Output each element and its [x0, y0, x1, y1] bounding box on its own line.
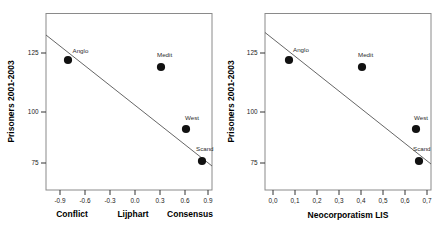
left-x-tick-3: -0.3: [104, 197, 115, 204]
left-point-label-west: West: [185, 114, 199, 121]
left-point-label-anglo: Anglo: [73, 47, 89, 54]
left-x-category-lijphart: Lijphart: [117, 209, 148, 219]
right-x-tick-4: 0,3: [334, 197, 343, 204]
left-x-category-conflict: Conflict: [56, 209, 88, 219]
right-x-axis-title: Neocorporatism LIS: [307, 210, 388, 220]
left-x-tick-5: 0.3: [156, 197, 165, 204]
left-point-label-scand: Scand: [196, 145, 214, 152]
right-data-point-scand: [414, 157, 422, 165]
left-data-point-anglo: [64, 56, 72, 64]
left-y-axis-title: Prisoners 2001-2003: [6, 60, 16, 142]
left-x-tick-4: 0.0: [131, 197, 140, 204]
left-y-tick-75: 75: [31, 159, 39, 166]
left-chart-panel: Prisoners 2001-2003 125 100 75 -0.9 -0.6…: [0, 0, 222, 235]
left-x-tick-6: 0.6: [181, 197, 190, 204]
right-chart-panel: Prisoners 2001-2003 125 100 75 0,0 0,1 0…: [222, 0, 443, 235]
left-data-point-medit: [157, 63, 165, 71]
left-plot-frame: [46, 14, 212, 191]
left-chart-svg: Prisoners 2001-2003 125 100 75 -0.9 -0.6…: [0, 0, 222, 235]
right-chart-svg: Prisoners 2001-2003 125 100 75 0,0 0,1 0…: [222, 0, 443, 235]
scatterplot-figure: Prisoners 2001-2003 125 100 75 -0.9 -0.6…: [0, 0, 443, 235]
right-point-label-medit: Medit: [358, 51, 373, 58]
left-x-tick-2: -0.6: [79, 197, 90, 204]
right-x-tick-7: 0,6: [400, 197, 409, 204]
left-data-point-west: [182, 125, 190, 133]
right-plot-frame: [265, 14, 431, 191]
left-x-category-consensus: Consensus: [167, 209, 213, 219]
right-x-tick-5: 0,4: [356, 197, 365, 204]
right-data-point-medit: [357, 63, 365, 71]
right-data-point-west: [411, 125, 419, 133]
left-point-label-medit: Medit: [157, 51, 172, 58]
left-x-tick-7: 0.9: [204, 197, 213, 204]
right-x-tick-2: 0,1: [290, 197, 299, 204]
right-y-axis-title: Prisoners 2001-2003: [226, 60, 236, 142]
right-x-tick-6: 0,5: [378, 197, 387, 204]
right-point-label-anglo: Anglo: [293, 46, 309, 53]
left-y-tick-125: 125: [28, 49, 39, 56]
right-point-label-scand: Scand: [413, 145, 431, 152]
right-y-tick-75: 75: [250, 159, 258, 166]
right-data-point-anglo: [284, 56, 292, 64]
left-x-tick-1: -0.9: [54, 197, 65, 204]
right-y-tick-125: 125: [246, 49, 257, 56]
right-x-tick-3: 0,2: [312, 197, 321, 204]
right-x-tick-1: 0,0: [268, 197, 277, 204]
right-point-label-west: West: [414, 114, 428, 121]
left-y-tick-100: 100: [28, 108, 39, 115]
right-x-tick-8: 0,7: [422, 197, 431, 204]
left-data-point-scand: [198, 157, 206, 165]
right-y-tick-100: 100: [246, 108, 257, 115]
